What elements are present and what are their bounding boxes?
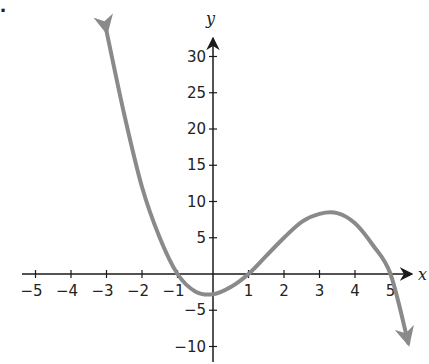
y-tick-label: −10	[174, 338, 206, 356]
x-tick-label: 4	[350, 282, 360, 300]
cubic-function-graph: x y −5−4−3−2−112345 30252015105−5−10	[0, 0, 429, 364]
y-tick-label: 15	[187, 156, 206, 174]
x-tick-label: 3	[315, 282, 325, 300]
x-tick-label: −2	[127, 282, 149, 300]
y-axis-label: y	[205, 9, 216, 28]
y-tick-label: 25	[187, 84, 206, 102]
y-tick-label: 5	[196, 229, 206, 247]
x-tick-label: −3	[91, 282, 113, 300]
y-tick-label: −5	[184, 301, 206, 319]
axes: x y	[22, 9, 427, 362]
x-tick-label: 2	[279, 282, 289, 300]
x-tick-label: 1	[244, 282, 254, 300]
x-tick-label: −1	[162, 282, 184, 300]
y-tick-label: 10	[187, 193, 206, 211]
function-curve	[107, 31, 409, 343]
y-ticks: 30252015105−5−10	[174, 48, 217, 356]
y-tick-label: 30	[187, 48, 206, 66]
y-tick-label: 20	[187, 120, 206, 138]
x-tick-label: −4	[56, 282, 78, 300]
x-tick-label: −5	[20, 282, 42, 300]
x-axis-label: x	[418, 265, 427, 284]
